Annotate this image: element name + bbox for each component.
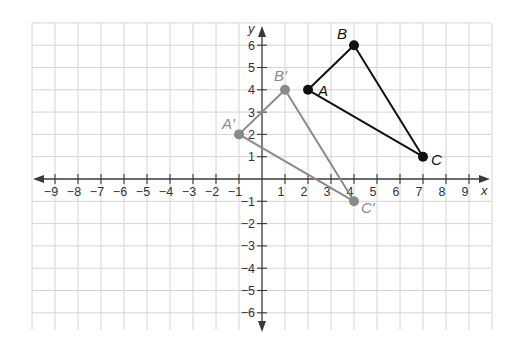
point-c [418,152,428,162]
x-tick-label: −6 [113,185,127,199]
point-a [303,85,313,95]
x-tick-label: −4 [159,185,173,199]
y-tick-label: −3 [241,239,255,253]
x-tick-label: 9 [462,185,469,199]
x-tick-label: 2 [301,185,308,199]
triangle-abc [308,45,423,157]
y-axis-up-arrow-icon [258,26,266,37]
x-tick-label: 1 [278,185,285,199]
y-tick-label: 5 [248,61,255,75]
x-tick-label: −3 [182,185,196,199]
y-tick-label: 1 [248,150,255,164]
x-tick-label: 7 [416,185,423,199]
y-tick-label: 3 [248,106,255,120]
point-label-a: A [317,82,328,99]
x-tick-label: −9 [44,185,58,199]
point-label-b: B [337,25,347,42]
y-axis-down-arrow-icon [258,321,266,332]
x-tick-label: −8 [67,185,81,199]
y-tick-label: −4 [241,262,255,276]
point-label-c: C [431,151,442,168]
y-tick-label: −5 [241,284,255,298]
point-label-c-prime: C' [361,199,376,216]
x-axis-label: x [480,183,488,198]
point-label-a-prime: A' [221,115,236,132]
x-tick-label: −7 [90,185,104,199]
point-b-prime [280,85,290,95]
y-tick-label: 4 [248,83,255,97]
x-tick-label: 8 [439,185,446,199]
point-a-prime [234,129,244,139]
x-axis-left-arrow-icon [33,175,44,183]
coordinate-plane: x y −9−8−7−6−5−4−3−2−1123456789654321−1−… [0,0,510,346]
x-tick-label: 5 [370,185,377,199]
y-tick-label: −2 [241,217,255,231]
x-tick-label: −2 [205,185,219,199]
x-tick-label: 6 [393,185,400,199]
y-tick-label: 6 [248,39,255,53]
x-tick-label: −5 [136,185,150,199]
point-c-prime [349,196,359,206]
x-axis-right-arrow-icon [479,175,490,183]
point-label-b-prime: B' [274,67,288,84]
y-tick-label: −6 [241,306,255,320]
y-tick-label: −1 [241,195,255,209]
point-b [349,40,359,50]
